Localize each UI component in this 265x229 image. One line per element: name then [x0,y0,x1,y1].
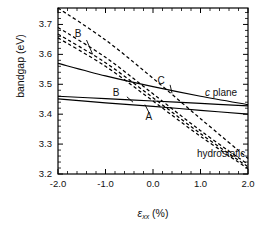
x-axis-subscript: xx [142,213,149,220]
label-A: A [146,111,153,122]
label-hydrostatic: hydrostatic [197,148,245,159]
y-tick-label: 3.7 [22,18,52,29]
y-tick-label: 3.5 [22,78,52,89]
y-tick-label: 3.6 [22,48,52,59]
x-axis-title: εxx (%) [58,207,248,220]
c-plane-word: plane [210,87,237,98]
y-tick-label: 3.3 [22,138,52,149]
curve-hydrostatic-C [58,8,248,158]
label-C: C [157,75,164,86]
x-tick-label: 0.0 [133,178,173,189]
y-tick-label: 3.4 [22,108,52,119]
x-axis-unit: (%) [152,207,168,219]
x-tick-label: 2.0 [228,178,265,189]
x-tick-label: -2.0 [38,178,78,189]
bandgap-strain-chart: bandgap (eV) εxx (%) BCBAc planehydrosta… [0,0,265,229]
label-B-lower: B [113,87,120,98]
label-c-plane: c plane [205,87,237,98]
x-tick-label: 1.0 [181,178,221,189]
y-axis-title: bandgap (eV) [14,24,26,108]
label-B-upper: B [75,28,82,39]
x-tick-label: -1.0 [86,178,126,189]
